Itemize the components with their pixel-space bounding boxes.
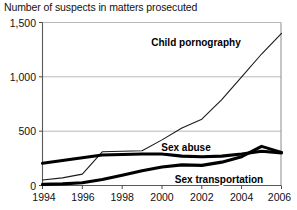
chart-figure: Number of suspects in matters prosecuted bbox=[0, 0, 297, 210]
x-tick-label: 2004 bbox=[230, 191, 254, 203]
series-label-sex-abuse: Sex abuse bbox=[161, 142, 211, 153]
x-tick-label: 2000 bbox=[150, 191, 174, 203]
y-tick-label: 1,000 bbox=[10, 71, 36, 83]
x-tick-label: 1996 bbox=[71, 191, 95, 203]
x-tick-label: 1994 bbox=[32, 191, 56, 203]
series-label-sex-transportation: Sex transportation bbox=[175, 174, 263, 185]
line-chart: 1,500 1,000 500 0 1994 1996 1998 2000 20… bbox=[0, 0, 297, 210]
y-tick-label: 500 bbox=[18, 125, 36, 137]
x-tick-label: 2006 bbox=[268, 191, 292, 203]
y-tick-label: 1,500 bbox=[10, 17, 36, 29]
x-axis-labels: 1994 1996 1998 2000 2002 2004 2006 bbox=[32, 191, 291, 203]
x-tick-label: 2002 bbox=[190, 191, 214, 203]
y-axis-labels: 1,500 1,000 500 0 bbox=[10, 17, 36, 192]
y-tick-label: 0 bbox=[30, 180, 36, 192]
series-label-child-pornography: Child pornography bbox=[151, 37, 241, 48]
x-tick-label: 1998 bbox=[111, 191, 135, 203]
